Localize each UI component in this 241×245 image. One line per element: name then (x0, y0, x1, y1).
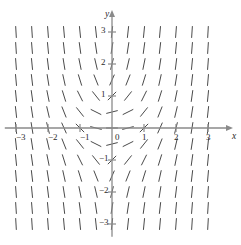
slope-segment (192, 203, 193, 214)
slope-segment (158, 107, 162, 117)
slope-segment (208, 75, 209, 86)
slope-segment (207, 155, 208, 166)
slope-segment (127, 219, 128, 230)
slope-segment (16, 59, 17, 70)
slope-segment (94, 75, 98, 85)
slope-segment (63, 43, 64, 54)
slope-segment (142, 171, 145, 182)
slope-segment (32, 43, 33, 54)
slope-segment (95, 187, 98, 198)
slope-segment (125, 156, 132, 165)
y-tick-label-5: −3 (99, 218, 109, 227)
slope-segment (79, 219, 80, 230)
x-axis-label: x (232, 132, 236, 142)
slope-segment (159, 203, 160, 214)
slope-segment (143, 43, 145, 54)
slope-segment (175, 155, 177, 166)
slope-segment (78, 171, 81, 182)
slope-segment (143, 187, 145, 198)
slope-segment (208, 187, 209, 198)
slope-segment (208, 59, 209, 70)
slope-segment (191, 59, 192, 70)
slope-segment (143, 219, 144, 230)
y-tick-label-4: −2 (99, 186, 109, 195)
slope-segment (62, 107, 66, 117)
x-tick-label-4: 1 (142, 133, 147, 142)
slope-segment (95, 59, 98, 70)
slope-segment (15, 107, 16, 118)
slope-segment (78, 75, 81, 86)
slope-segment (159, 187, 161, 198)
slope-segment (31, 59, 32, 70)
slope-segment (48, 219, 49, 230)
slope-segment (64, 219, 65, 230)
slope-segment (31, 155, 33, 166)
slope-segment (31, 91, 33, 102)
slope-segment (160, 219, 161, 230)
slope-field-plot (0, 0, 241, 245)
slope-segment (208, 43, 209, 54)
y-tick-label-3: −1 (99, 154, 109, 163)
x-tick-label-6: 3 (206, 133, 211, 142)
slope-segment (91, 110, 101, 115)
slope-segment (95, 219, 96, 230)
slope-segment (79, 187, 81, 198)
slope-segment (63, 187, 65, 198)
slope-segment (126, 171, 130, 181)
slope-segment (159, 59, 161, 70)
slope-segment (93, 92, 100, 101)
slope-segment (127, 59, 130, 70)
slope-segment (208, 27, 209, 38)
slope-segment (175, 171, 177, 182)
y-axis-label: y (105, 10, 109, 20)
slope-segment (141, 108, 148, 117)
slope-segment (16, 43, 17, 54)
slope-segment (32, 219, 33, 230)
x-tick-label-5: 2 (174, 133, 179, 142)
y-tick-label-1: 2 (101, 58, 106, 67)
slope-segment (191, 155, 193, 166)
slope-segment (191, 75, 192, 86)
x-tick-label-0: −3 (16, 133, 26, 142)
slope-segment (77, 108, 84, 117)
slope-segment (31, 75, 32, 86)
slope-segment (175, 59, 176, 70)
slope-segment (79, 43, 81, 54)
x-tick-label-3: 0 (115, 133, 120, 142)
slope-segment (142, 155, 147, 165)
slope-segment (143, 203, 145, 214)
slope-segment (78, 155, 83, 165)
slope-segment (142, 75, 145, 86)
slope-segment (191, 187, 192, 198)
slope-segment (48, 27, 49, 38)
slope-segment (175, 43, 176, 54)
slope-segment (16, 203, 17, 214)
slope-segment (159, 43, 160, 54)
slope-segment (47, 43, 48, 54)
slope-segment (159, 75, 161, 86)
slope-segment (95, 27, 96, 38)
slope-segment (143, 27, 144, 38)
slope-segment (32, 203, 33, 214)
slope-segment (143, 59, 145, 70)
slope-segment (63, 203, 64, 214)
slope-segment (95, 203, 97, 214)
slope-segment (63, 171, 65, 182)
coordinate-axes (5, 10, 233, 237)
slope-segment (142, 91, 147, 101)
x-tick-label-2: −1 (80, 133, 90, 142)
slope-segment (127, 187, 130, 198)
slope-segment (47, 75, 49, 86)
slope-segment (192, 27, 193, 38)
slope-segment (208, 203, 209, 214)
slope-segment (78, 91, 83, 101)
slope-segment (16, 187, 17, 198)
slope-segment (15, 91, 16, 102)
y-tick-label-2: 1 (101, 90, 106, 99)
slope-segment (91, 142, 101, 147)
slope-segment (160, 27, 161, 38)
slope-segment (175, 91, 177, 102)
slope-segment (16, 171, 17, 182)
slope-segment (62, 139, 66, 149)
slope-segment (191, 139, 193, 150)
